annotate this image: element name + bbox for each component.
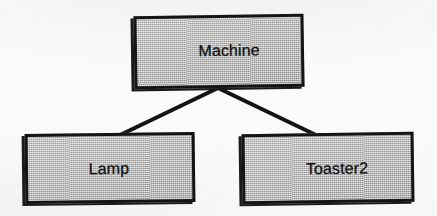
class-node-machine[interactable]: Machine [133, 14, 304, 90]
class-name-label: Lamp [89, 161, 130, 177]
link-machine-lamp[interactable] [118, 88, 218, 136]
node-body: Machine [133, 14, 304, 90]
diagram-canvas: Machine Lamp Toaster2 [0, 0, 437, 216]
class-name-label: Toaster2 [306, 160, 368, 177]
class-node-lamp[interactable]: Lamp [25, 132, 196, 204]
link-machine-toaster2[interactable] [218, 88, 318, 136]
node-body: Toaster2 [242, 132, 415, 204]
class-name-label: Machine [198, 42, 259, 59]
class-node-toaster2[interactable]: Toaster2 [242, 132, 415, 204]
node-body: Lamp [25, 132, 196, 204]
